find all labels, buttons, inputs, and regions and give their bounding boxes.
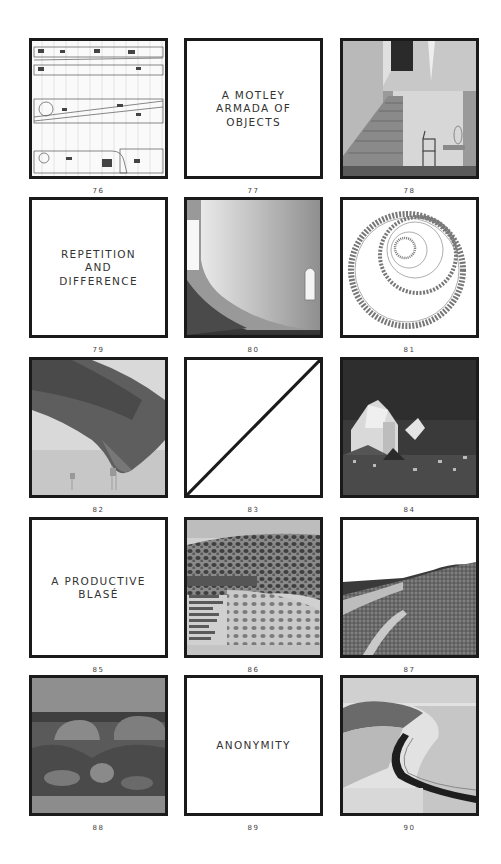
gravel-hills-icon [343, 520, 476, 655]
frame-number: 89 [184, 824, 323, 832]
stone-mosaic-photo [184, 517, 323, 658]
curved-wall-photo [184, 197, 323, 338]
staircase-photo [340, 38, 479, 179]
frame-cell-77: A MOTLEY ARMADA OF OBJECTS 77 [184, 38, 323, 179]
frame-cell-85: A PRODUCTIVE BLASÉ 85 [29, 517, 168, 658]
frame-number: 79 [29, 346, 168, 354]
hand-collage-photo [29, 357, 168, 498]
panel-title: ANONYMITY [187, 739, 320, 753]
text-panel: A PRODUCTIVE BLASÉ [29, 517, 168, 658]
text-panel: REPETITION AND DIFFERENCE [29, 197, 168, 338]
frame-number: 90 [340, 824, 479, 832]
gravel-hills-photo [340, 517, 479, 658]
church-image-icon [343, 360, 476, 495]
frame-cell-76: 76 [29, 38, 168, 179]
frame-cell-78: 78 [340, 38, 479, 179]
text-panel: ANONYMITY [184, 675, 323, 816]
frame-number: 88 [29, 824, 168, 832]
panel-title: A MOTLEY ARMADA OF OBJECTS [187, 88, 320, 129]
frame-cell-90: 90 [340, 675, 479, 816]
frame-cell-86: 86 [184, 517, 323, 658]
stone-mosaic-icon [187, 520, 320, 655]
architectural-plan-icon [32, 41, 165, 176]
staircase-image-icon [343, 41, 476, 176]
frame-cell-88: 88 [29, 675, 168, 816]
hand-image-icon [32, 360, 165, 495]
coastal-road-photo [340, 675, 479, 816]
frame-cell-80: 80 [184, 197, 323, 338]
frame-number: 86 [184, 666, 323, 674]
spiral-icon [343, 200, 476, 335]
frame-number: 83 [184, 506, 323, 514]
panel-title: REPETITION AND DIFFERENCE [32, 247, 165, 288]
text-panel: A MOTLEY ARMADA OF OBJECTS [184, 38, 323, 179]
frame-cell-79: REPETITION AND DIFFERENCE 79 [29, 197, 168, 338]
frame-number: 82 [29, 506, 168, 514]
frame-number: 77 [184, 187, 323, 195]
rocky-landscape-icon [32, 678, 165, 813]
curved-wall-image-icon [187, 200, 320, 335]
diagonal-line-icon [187, 360, 320, 495]
frame-number: 84 [340, 506, 479, 514]
frame-cell-89: ANONYMITY 89 [184, 675, 323, 816]
rocky-domes-photo [29, 675, 168, 816]
frame-number: 81 [340, 346, 479, 354]
frame-number: 87 [340, 666, 479, 674]
spiral-drawing [340, 197, 479, 338]
frame-number: 78 [340, 187, 479, 195]
frame-cell-82: 82 [29, 357, 168, 498]
diagonal-panel [184, 357, 323, 498]
coastal-road-icon [343, 678, 476, 813]
church-village-photo [340, 357, 479, 498]
frame-number: 80 [184, 346, 323, 354]
frame-cell-83: 83 [184, 357, 323, 498]
frame-cell-84: 84 [340, 357, 479, 498]
frame-cell-81: 81 [340, 197, 479, 338]
plan-drawing-image [29, 38, 168, 179]
panel-title: A PRODUCTIVE BLASÉ [32, 574, 165, 601]
frame-number: 85 [29, 666, 168, 674]
frame-number: 76 [29, 187, 168, 195]
frame-cell-87: 87 [340, 517, 479, 658]
